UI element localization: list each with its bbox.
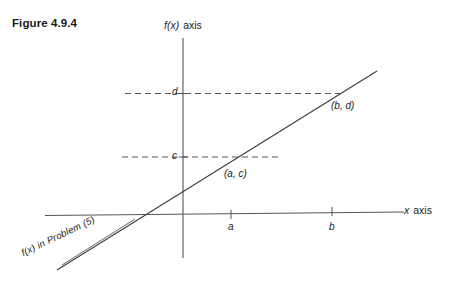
x-tick-label-a: a <box>228 221 234 232</box>
x-axis-label-variable: x <box>404 204 409 216</box>
y-axis-label-function: f(x) <box>164 19 179 31</box>
y-axis-label: f(x)axis <box>164 19 202 31</box>
y-tick-label-c: c <box>172 150 177 161</box>
y-tick-label-d: d <box>172 86 178 97</box>
x-tick-label-b: b <box>329 221 335 232</box>
plot-canvas <box>0 0 457 290</box>
x-axis-line <box>45 212 404 216</box>
point-label-bd: (b, d) <box>331 100 354 111</box>
x-axis-label: xaxis <box>404 204 432 216</box>
point-label-ac: (a, c) <box>224 168 247 179</box>
figure-container: Figure 4.9.4 f(x)axis xaxis d c a b (a, … <box>0 0 457 290</box>
y-axis-label-word: axis <box>183 19 202 31</box>
x-axis-label-word: axis <box>413 204 432 216</box>
function-line <box>57 71 377 270</box>
